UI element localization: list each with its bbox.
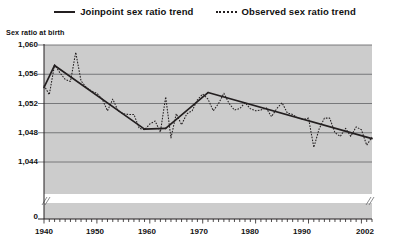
plot-background [44, 45, 372, 219]
axis-break-band [44, 194, 372, 203]
plot-area [0, 0, 410, 252]
sex-ratio-line-chart: Joinpoint sex ratio trend Observed sex r… [0, 0, 410, 252]
joinpoint-trend-segment-2 [145, 128, 166, 129]
